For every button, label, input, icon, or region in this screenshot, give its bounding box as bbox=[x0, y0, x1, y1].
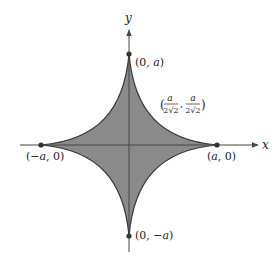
label-diagonal: ( a 2√2 , a 2√2 ) bbox=[160, 93, 206, 115]
svg-text:): ) bbox=[201, 98, 206, 112]
svg-text:2√2: 2√2 bbox=[185, 106, 200, 115]
point-bottom bbox=[126, 233, 131, 238]
svg-text:,: , bbox=[180, 98, 183, 109]
astroid-diagram: x y (0, a) (0, −a) (−a, 0) (a, 0) ( a 2√… bbox=[0, 0, 276, 266]
label-right: (a, 0) bbox=[207, 150, 236, 163]
y-axis-label: y bbox=[124, 11, 132, 25]
label-bottom: (0, −a) bbox=[135, 229, 173, 242]
label-top: (0, a) bbox=[135, 56, 164, 69]
svg-text:a: a bbox=[167, 93, 172, 103]
x-axis-label: x bbox=[262, 138, 269, 152]
point-right bbox=[214, 142, 219, 147]
point-top bbox=[126, 51, 131, 56]
label-left: (−a, 0) bbox=[26, 150, 64, 163]
svg-text:2√2: 2√2 bbox=[163, 106, 178, 115]
svg-text:a: a bbox=[190, 93, 195, 103]
point-left bbox=[38, 142, 43, 147]
